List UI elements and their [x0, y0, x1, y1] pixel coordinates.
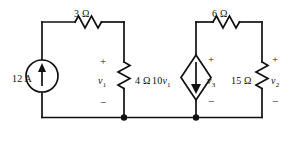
resistor-4ohm-symbol — [118, 62, 130, 89]
resistor-4ohm-label: 4 Ω — [135, 76, 151, 86]
circuit-schematic-svg — [0, 0, 300, 141]
dependent-source-label: 10v1 — [152, 76, 171, 89]
polarity-plus-v1: + — [100, 56, 106, 67]
polarity-minus-v3: − — [208, 96, 214, 107]
circuit-diagram: 3 Ω 6 Ω 12 A 4 Ω 15 Ω 10v1 v1 + − v3 + −… — [0, 0, 300, 141]
voltage-v1-subscript: 1 — [103, 81, 107, 89]
polarity-minus-v1: − — [100, 97, 106, 108]
polarity-minus-v2: − — [272, 96, 278, 107]
resistor-15ohm-symbol — [256, 62, 268, 89]
dependent-source-subscript: 1 — [167, 81, 171, 89]
voltage-v3-subscript: 3 — [212, 81, 216, 89]
voltage-v2-subscript: 2 — [276, 81, 280, 89]
current-source-12a-label: 12 A — [12, 74, 32, 84]
resistor-15ohm-label: 15 Ω — [231, 76, 252, 86]
voltage-label-v1: v1 — [98, 76, 106, 89]
node-dot-right — [193, 114, 199, 120]
polarity-plus-v2: + — [272, 54, 278, 65]
voltage-label-v3: v3 — [207, 76, 215, 89]
polarity-plus-v3: + — [208, 54, 214, 65]
dependent-source-gain: 10 — [152, 75, 162, 86]
resistor-6ohm-label: 6 Ω — [212, 9, 228, 19]
voltage-label-v2: v2 — [271, 76, 279, 89]
node-dot-left — [121, 114, 127, 120]
resistor-3ohm-label: 3 Ω — [74, 9, 90, 19]
